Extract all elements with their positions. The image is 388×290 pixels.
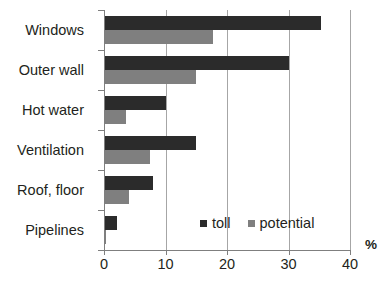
category-label: Roof, floor <box>0 183 84 198</box>
bar-toll <box>104 16 321 30</box>
category-label: Ventilation <box>0 143 84 158</box>
gridline <box>227 10 228 250</box>
category-label: Pipelines <box>0 223 84 238</box>
y-axis-tick <box>98 90 104 91</box>
y-axis-tick <box>98 210 104 211</box>
x-axis-tick <box>104 250 105 255</box>
y-axis-tick <box>98 10 104 11</box>
y-axis-line <box>104 10 105 251</box>
legend-label-toll: toll <box>212 216 231 231</box>
x-axis-tick-label: 0 <box>84 256 124 272</box>
x-axis-tick-label: 20 <box>207 256 247 272</box>
bar-toll <box>104 56 289 70</box>
legend: toll potential <box>200 216 314 231</box>
x-axis-tick-label: 30 <box>269 256 309 272</box>
x-axis-tick <box>289 250 290 255</box>
legend-item-potential[interactable]: potential <box>248 216 315 231</box>
y-axis-tick <box>98 130 104 131</box>
category-label: Outer wall <box>0 63 84 78</box>
x-axis-tick <box>350 250 351 255</box>
x-axis-tick <box>166 250 167 255</box>
x-axis-tick-label: 10 <box>146 256 186 272</box>
bar-chart: WindowsOuter wallHot waterVentilationRoo… <box>0 0 388 290</box>
gridline <box>166 10 167 250</box>
y-axis-tick <box>98 50 104 51</box>
legend-swatch-icon-toll <box>200 220 207 227</box>
x-axis-unit-label: % <box>365 238 377 252</box>
legend-swatch-icon-potential <box>248 220 255 227</box>
category-label: Windows <box>0 23 84 38</box>
category-label: Hot water <box>0 103 84 118</box>
y-axis-tick <box>98 170 104 171</box>
x-axis-tick-label: 40 <box>330 256 370 272</box>
y-axis-tick <box>98 250 104 251</box>
legend-item-toll[interactable]: toll <box>200 216 231 231</box>
bar-potential <box>104 190 129 204</box>
plot-area <box>104 10 350 250</box>
legend-label-potential: potential <box>260 216 315 231</box>
gridline <box>289 10 290 250</box>
bar-toll <box>104 176 153 190</box>
bar-potential <box>104 150 150 164</box>
bar-toll <box>104 216 117 230</box>
bar-toll <box>104 96 166 110</box>
x-axis-tick <box>227 250 228 255</box>
bar-potential <box>104 110 126 124</box>
bar-potential <box>104 30 213 44</box>
bar-toll <box>104 136 196 150</box>
gridline <box>350 10 351 250</box>
category-axis-labels: WindowsOuter wallHot waterVentilationRoo… <box>0 10 90 250</box>
bar-potential <box>104 70 196 84</box>
